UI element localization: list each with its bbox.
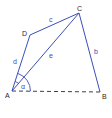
- angle-label-alpha: α: [21, 83, 25, 90]
- angle-arc-inner: [15, 82, 18, 84]
- side-label-c: c: [49, 16, 53, 23]
- side-label-d: d: [13, 58, 17, 65]
- point-label-a: A: [5, 92, 10, 99]
- side-label-e: e: [49, 52, 53, 59]
- side-label-b: b: [94, 48, 98, 55]
- segment-ab: [12, 91, 100, 92]
- point-label-c: C: [77, 5, 82, 12]
- segment-ac: [12, 13, 79, 91]
- point-label-d: D: [22, 30, 27, 37]
- point-label-b: B: [102, 93, 107, 100]
- quadrilateral-diagram: A B C D d c b e α: [0, 0, 112, 118]
- segment-dc: [30, 13, 79, 35]
